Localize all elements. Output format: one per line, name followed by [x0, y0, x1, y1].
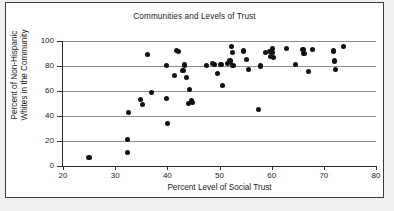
y-tick-20: [57, 141, 62, 142]
y-tick-40: [57, 116, 62, 117]
gridline-y-40: [63, 116, 376, 117]
data-point: [230, 63, 235, 68]
x-tick-label-50: 50: [207, 171, 233, 180]
x-tick-label-30: 30: [102, 171, 128, 180]
x-tick-70: [324, 166, 325, 170]
x-tick-label-60: 60: [259, 171, 285, 180]
y-tick-label-80: 80: [28, 61, 54, 70]
x-tick-50: [220, 166, 221, 170]
data-point: [184, 75, 189, 80]
y-tick-label-40: 40: [28, 111, 54, 120]
data-point: [284, 46, 289, 51]
data-point: [310, 47, 315, 52]
data-point: [126, 110, 131, 115]
data-point: [246, 67, 251, 72]
y-axis-label: Percent of Non-Hispanic Whites in the Co…: [10, 15, 30, 135]
chart-title: Communities and Levels of Trust: [6, 12, 383, 21]
data-point: [176, 49, 181, 54]
data-point: [256, 107, 261, 112]
data-point: [149, 90, 154, 95]
data-point: [258, 63, 263, 68]
data-point: [230, 50, 235, 55]
x-tick-80: [376, 166, 377, 170]
y-tick-label-0: 0: [28, 161, 54, 170]
y-tick-0: [57, 166, 62, 167]
gridline-y-100: [63, 41, 376, 42]
x-tick-20: [63, 166, 64, 170]
data-point: [204, 63, 209, 68]
data-point: [220, 83, 225, 88]
data-point: [180, 68, 185, 73]
data-point: [86, 155, 91, 160]
y-tick-label-100: 100: [28, 36, 54, 45]
x-tick-30: [115, 166, 116, 170]
y-tick-label-60: 60: [28, 86, 54, 95]
data-point: [125, 150, 130, 155]
data-point: [244, 57, 249, 62]
data-point: [306, 69, 311, 74]
y-tick-80: [57, 66, 62, 67]
y-tick-label-20: 20: [28, 136, 54, 145]
x-tick-40: [167, 166, 168, 170]
gridline-y-60: [63, 91, 376, 92]
data-point: [164, 96, 169, 101]
data-point: [190, 100, 195, 105]
plot-area: [63, 41, 376, 166]
data-point: [229, 44, 234, 49]
data-point: [182, 62, 187, 67]
x-tick-label-40: 40: [154, 171, 180, 180]
data-point: [212, 62, 217, 67]
data-point: [333, 67, 338, 72]
data-point: [140, 102, 145, 107]
data-point: [164, 63, 169, 68]
y-axis-label-line1: Percent of Non-Hispanic: [10, 31, 19, 120]
data-point: [165, 121, 170, 126]
data-point: [341, 44, 346, 49]
x-tick-label-70: 70: [311, 171, 337, 180]
chart-figure: Communities and Levels of Trust Percent …: [0, 0, 394, 211]
data-point: [172, 73, 177, 78]
data-point: [331, 48, 336, 53]
x-tick-label-20: 20: [50, 171, 76, 180]
gridline-y-20: [63, 141, 376, 142]
x-tick-60: [272, 166, 273, 170]
data-point: [301, 51, 306, 56]
y-tick-60: [57, 91, 62, 92]
data-point: [145, 52, 150, 57]
data-point: [271, 55, 276, 60]
data-point: [215, 71, 220, 76]
y-tick-100: [57, 41, 62, 42]
data-point: [241, 48, 246, 53]
x-tick-label-80: 80: [363, 171, 389, 180]
data-point: [332, 58, 337, 63]
data-point: [218, 62, 223, 67]
chart-frame: Communities and Levels of Trust Percent …: [5, 2, 384, 198]
x-axis-label: Percent Level of Social Trust: [63, 183, 376, 192]
